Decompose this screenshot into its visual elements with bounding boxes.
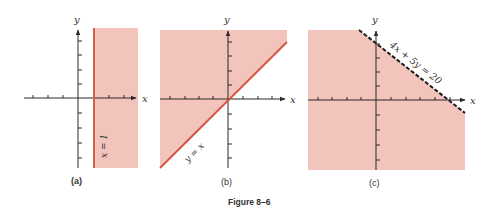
y-axis-label-a: y xyxy=(73,14,80,25)
panel-a: y x x = 1 (a) xyxy=(24,14,148,186)
y-ticks-a xyxy=(78,41,82,158)
figure-canvas: y x x = 1 (a) y x y = xyxy=(0,0,500,211)
x-axis-label-c: x xyxy=(470,95,476,106)
panel-b: y x y = x (b) xyxy=(160,14,296,187)
panel-label-a: (a) xyxy=(71,176,82,186)
y-axis-label-c: y xyxy=(371,14,378,25)
panel-label-b: (b) xyxy=(221,177,232,187)
y-axis-label-b: y xyxy=(223,14,230,25)
boundary-label-b: y = x xyxy=(182,141,206,165)
x-axis-label-a: x xyxy=(142,93,148,104)
panel-c: y x 4x + 5y = 20 (c) xyxy=(308,14,476,188)
panel-label-c: (c) xyxy=(369,178,380,188)
figure-caption: Figure 8–6 xyxy=(228,197,271,207)
boundary-label-a: x = 1 xyxy=(99,134,109,158)
x-axis-label-b: x xyxy=(290,94,296,105)
